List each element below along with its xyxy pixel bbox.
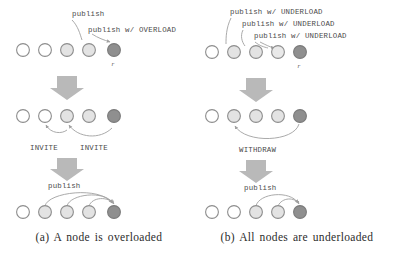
arc-publish-b3-1 xyxy=(256,195,298,206)
caption-panel-b: (b) All nodes are underloaded xyxy=(198,231,396,243)
node-label-r-a1: r xyxy=(112,60,115,68)
node-b3-1[interactable] xyxy=(206,206,219,219)
node-a3-5-overloaded[interactable] xyxy=(108,206,121,219)
arc-underload-b1-2 xyxy=(242,30,245,46)
node-row-b1: r xyxy=(206,46,307,70)
label-publish-overload-a1: publish w/ OVERLOAD xyxy=(88,26,176,34)
figure-container: publish publish w/ OVERLOAD r xyxy=(0,0,396,256)
arc-publish-overload-a1 xyxy=(92,34,110,42)
node-a3-3[interactable] xyxy=(61,206,74,219)
node-a1-5-overloaded[interactable] xyxy=(108,44,121,57)
arc-underload-b1-into-r xyxy=(260,42,274,48)
node-b3-5[interactable] xyxy=(294,206,307,219)
node-b2-4[interactable] xyxy=(272,110,285,123)
panel-a-overloaded: publish publish w/ OVERLOAD r xyxy=(0,0,198,256)
arc-publish-a3-1 xyxy=(45,193,112,206)
label-publish-a1: publish xyxy=(72,10,104,18)
arc-publish-a1 xyxy=(72,20,82,40)
node-b1-2[interactable] xyxy=(228,46,241,59)
node-b1-1[interactable] xyxy=(206,46,219,59)
label-publish-b3: publish xyxy=(244,184,276,192)
node-b2-5[interactable] xyxy=(294,110,307,123)
node-a3-4[interactable] xyxy=(83,206,96,219)
node-b2-1[interactable] xyxy=(206,110,219,123)
block-arrow-b-2 xyxy=(239,160,273,183)
arc-underload-b1-1 xyxy=(226,18,231,44)
label-withdraw-b2: WITHDRAW xyxy=(239,146,276,154)
panel-b-underloaded: publish w/ UNDERLOAD publish w/ UNDERLOA… xyxy=(198,0,396,256)
block-arrow-b-1 xyxy=(239,78,273,102)
node-row-a2 xyxy=(17,110,121,123)
node-b3-4[interactable] xyxy=(272,206,285,219)
node-row-b3 xyxy=(206,206,307,219)
arc-invite-a2-1 xyxy=(46,125,67,133)
node-a2-3[interactable] xyxy=(61,110,74,123)
node-row-b2 xyxy=(206,110,307,123)
node-a1-1[interactable] xyxy=(17,44,30,57)
arc-withdraw-b2 xyxy=(235,124,299,139)
node-a3-2[interactable] xyxy=(39,206,52,219)
label-invite-a2-2: INVITE xyxy=(80,144,108,152)
node-b2-3[interactable] xyxy=(250,110,263,123)
block-arrow-a-2 xyxy=(50,158,84,181)
label-invite-a2-1: INVITE xyxy=(30,144,58,152)
node-b1-5-node-r[interactable] xyxy=(294,46,307,59)
caption-panel-a: (a) A node is overloaded xyxy=(0,231,198,243)
label-publish-a3: publish xyxy=(48,182,80,190)
node-a1-3[interactable] xyxy=(61,44,74,57)
node-b1-4[interactable] xyxy=(272,46,285,59)
block-arrow-a-1 xyxy=(50,76,84,100)
node-b3-3[interactable] xyxy=(250,206,263,219)
panel-a-diagram: publish publish w/ OVERLOAD r xyxy=(0,0,198,226)
node-a3-1[interactable] xyxy=(17,206,30,219)
node-a2-5-overloaded[interactable] xyxy=(108,110,121,123)
node-row-a3 xyxy=(17,206,121,219)
label-publish-underload-b1-2: publish w/ UNDERLOAD xyxy=(242,20,335,28)
node-a1-4[interactable] xyxy=(83,44,96,57)
node-a2-2[interactable] xyxy=(39,110,52,123)
node-label-r-b1: r xyxy=(298,62,301,70)
node-b1-3[interactable] xyxy=(250,46,263,59)
node-a2-1[interactable] xyxy=(17,110,30,123)
panel-b-diagram: publish w/ UNDERLOAD publish w/ UNDERLOA… xyxy=(198,0,396,226)
arc-invite-a2-2 xyxy=(69,125,112,136)
node-row-a1: r xyxy=(17,44,121,68)
node-a1-2[interactable] xyxy=(39,44,52,57)
label-publish-underload-b1-1: publish w/ UNDERLOAD xyxy=(230,8,323,16)
node-b3-2[interactable] xyxy=(228,206,241,219)
label-publish-underload-b1-3: publish w/ UNDERLOAD xyxy=(254,32,347,40)
node-b2-2[interactable] xyxy=(228,110,241,123)
node-a2-4[interactable] xyxy=(83,110,96,123)
